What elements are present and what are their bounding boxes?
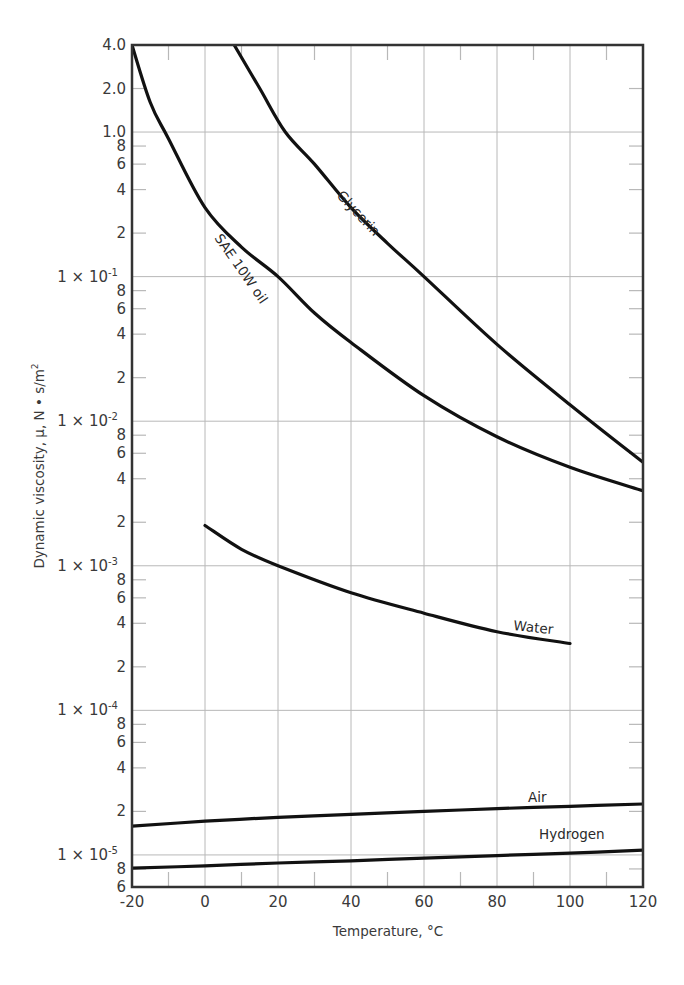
x-tick-label: 120: [629, 893, 658, 911]
curve-hydrogen: [132, 850, 643, 868]
y-tick-label: 8: [116, 282, 126, 300]
y-tick-label: 1 × 10-5: [57, 845, 118, 864]
y-tick-label: 2: [116, 658, 126, 676]
y-tick-label: 2: [116, 224, 126, 242]
y-axis-title: Dynamic viscosity, μ, N • s/m2: [30, 363, 47, 568]
y-tick-label: 4: [116, 759, 126, 777]
y-tick-label: 4.0: [102, 36, 126, 54]
curve-label-hydrogen: Hydrogen: [539, 826, 605, 842]
x-tick-label: 100: [556, 893, 585, 911]
curve-label-air: Air: [528, 789, 547, 805]
y-tick-label: 1 × 10-4: [57, 700, 118, 719]
y-tick-label: 8: [116, 426, 126, 444]
y-tick-label: 4: [116, 181, 126, 199]
x-axis-tick-labels: -20020406080100120: [120, 893, 658, 911]
y-axis-tick-labels: 4.02.01.086421 × 10-186421 × 10-286421 ×…: [57, 36, 126, 896]
y-tick-label: 2: [116, 802, 126, 820]
viscosity-chart: 4.02.01.086421 × 10-186421 × 10-286421 ×…: [0, 0, 684, 985]
curve-labels: SAE 10W oilGlycerinWaterAirHydrogen: [212, 187, 605, 842]
y-tick-label: 4: [116, 325, 126, 343]
y-tick-label: 1 × 10-3: [57, 556, 118, 575]
y-tick-label: 6: [116, 155, 126, 173]
x-tick-label: 0: [200, 893, 210, 911]
x-tick-label: -20: [120, 893, 145, 911]
y-tick-label: 8: [116, 860, 126, 878]
x-tick-label: 40: [341, 893, 360, 911]
y-tick-label: 4: [116, 470, 126, 488]
y-tick-label: 8: [116, 137, 126, 155]
x-axis-title: Temperature, °C: [332, 923, 443, 939]
y-tick-label: 8: [116, 571, 126, 589]
y-tick-label: 6: [116, 733, 126, 751]
curve-label-sae-10w-oil: SAE 10W oil: [212, 231, 272, 307]
y-tick-label: 4: [116, 614, 126, 632]
x-tick-label: 60: [414, 893, 433, 911]
y-tick-label: 2: [116, 369, 126, 387]
y-tick-label: 6: [116, 300, 126, 318]
y-tick-label: 6: [116, 589, 126, 607]
y-tick-label: 8: [116, 715, 126, 733]
x-tick-label: 80: [487, 893, 506, 911]
y-tick-label: 2: [116, 513, 126, 531]
curve-air: [132, 804, 643, 826]
y-tick-label: 6: [116, 444, 126, 462]
y-tick-label: 2.0: [102, 80, 126, 98]
curve-sae-10w-oil: [132, 45, 643, 491]
x-tick-label: 20: [268, 893, 287, 911]
curve-label-glycerin: Glycerin: [334, 187, 384, 239]
y-tick-label: 1 × 10-1: [57, 267, 118, 286]
y-tick-label: 1 × 10-2: [57, 411, 118, 430]
curve-glycerin: [234, 45, 643, 462]
data-curves: [132, 45, 643, 868]
